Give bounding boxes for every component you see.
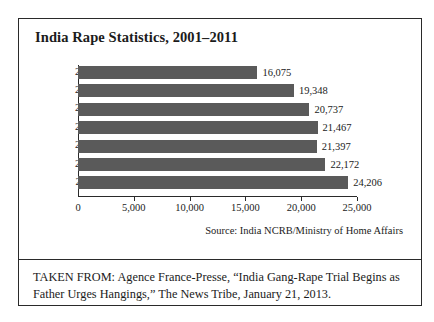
chart-bar — [78, 140, 317, 153]
figure-caption: TAKEN FROM: Agence France-Presse, “India… — [33, 269, 409, 303]
x-axis-tick — [190, 197, 191, 201]
chart-bar — [78, 176, 348, 189]
bar-value-label: 16,075 — [262, 66, 291, 79]
bar-value-label: 20,737 — [314, 103, 343, 116]
x-axis-tick-label: 15,000 — [231, 202, 260, 214]
x-axis-tick — [301, 197, 302, 201]
x-axis-tick — [245, 197, 246, 201]
x-axis-tick-label: 5,000 — [122, 202, 146, 214]
x-axis-tick — [134, 197, 135, 201]
x-axis-tick-label: 10,000 — [175, 202, 204, 214]
bar-value-label: 22,172 — [330, 158, 359, 171]
bar-value-label: 19,348 — [299, 84, 328, 97]
x-axis-tick — [357, 197, 358, 201]
chart-bar — [78, 84, 294, 97]
chart-bar — [78, 66, 257, 79]
chart-bar — [78, 103, 309, 116]
chart-title: India Rape Statistics, 2001–2011 — [35, 29, 238, 46]
x-axis-tick-label: 25,000 — [343, 202, 372, 214]
x-axis-tick-label: 0 — [75, 202, 80, 214]
x-axis-tick-label: 20,000 — [287, 202, 316, 214]
bar-value-label: 21,467 — [323, 121, 352, 134]
figure-divider — [19, 259, 421, 260]
chart-plot-area: 200116,075200619,348200720,737200821,467… — [60, 63, 405, 213]
bar-value-label: 24,206 — [353, 176, 382, 189]
bar-value-label: 21,397 — [322, 140, 351, 153]
chart-bar — [78, 121, 318, 134]
chart-bar — [78, 158, 325, 171]
x-axis-line — [78, 196, 357, 197]
chart-source-note: Source: India NCRB/Ministry of Home Affa… — [205, 225, 403, 236]
figure-frame: India Rape Statistics, 2001–2011 200116,… — [18, 18, 422, 306]
